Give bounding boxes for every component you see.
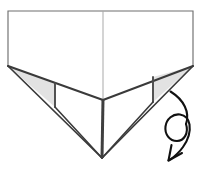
origami-diagram-svg: Origami fold step diagram Paper model se… [0,0,207,174]
center-heavy-fold-line [102,99,103,158]
origami-diagram-figure: Origami fold step diagram Paper model se… [0,0,207,174]
